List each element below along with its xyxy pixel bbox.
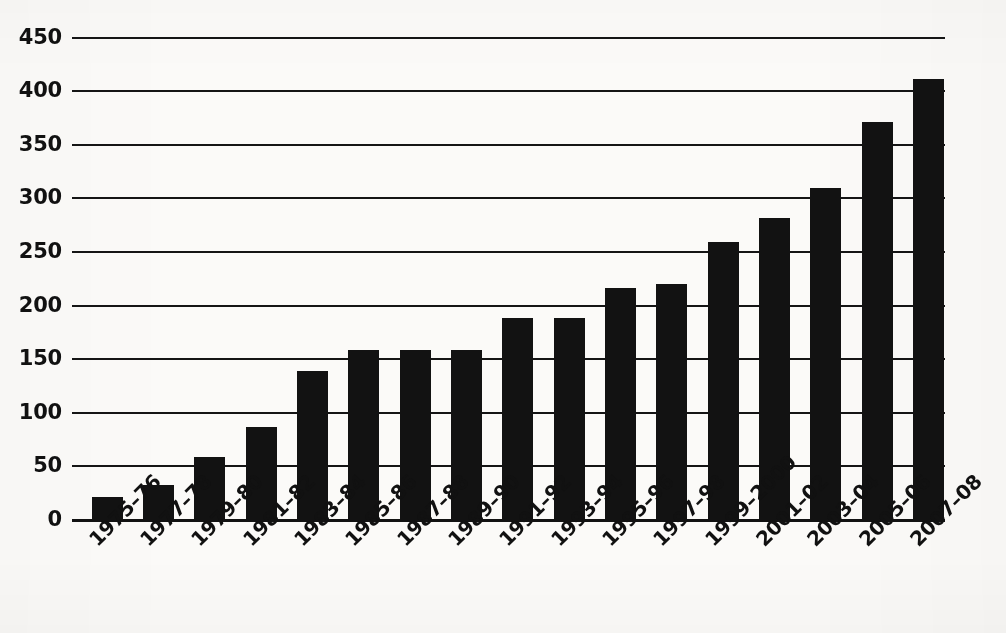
bar-chart: 450 400 350 300 250 200 150 100 50 0 197 [0,0,1006,633]
x-axis-tick-labels: 1975–76 1977–78 1979–80 1981–82 1983–84 … [0,0,1006,633]
